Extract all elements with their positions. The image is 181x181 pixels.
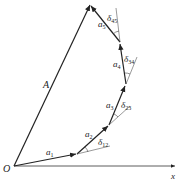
angle-label-12: δ12 — [98, 137, 108, 148]
resultant-vector-A — [14, 5, 90, 166]
angle-arc-45 — [113, 31, 119, 34]
vector-label-a3: a3 — [106, 100, 114, 111]
angle-arc-23 — [114, 114, 118, 117]
vector-a5 — [91, 6, 120, 42]
vector-label-a5: a5 — [98, 19, 106, 30]
vector-a1 — [14, 154, 76, 166]
vector-a4 — [120, 44, 126, 84]
angle-label-45: δ45 — [107, 13, 117, 24]
x-axis-label: x — [170, 171, 175, 181]
vector-label-a1: a1 — [46, 147, 54, 158]
angle-label-23: δ23 — [121, 100, 131, 111]
angle-arc-12 — [85, 147, 88, 152]
angle-arc-34 — [125, 73, 130, 74]
vector-polygon-diagram: O x A a1 a2 a3 a4 a5 δ12 δ23 δ34 δ45 — [0, 0, 181, 181]
origin-label: O — [3, 163, 10, 174]
vector-a2 — [77, 126, 108, 154]
vector-label-a4: a4 — [113, 59, 121, 70]
resultant-label: A — [42, 79, 50, 90]
vector-label-a2: a2 — [85, 129, 93, 140]
angle-label-34: δ34 — [124, 54, 134, 65]
